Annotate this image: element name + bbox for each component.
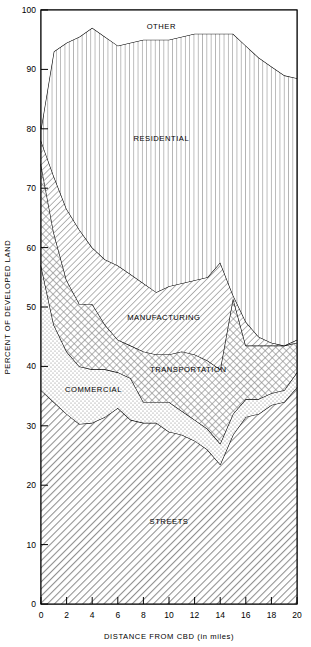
area-label-other: OTHER — [147, 22, 176, 31]
y-tick-label: 50 — [27, 302, 37, 312]
x-tick-label: 20 — [292, 610, 302, 620]
y-tick-label: 90 — [27, 64, 37, 74]
y-tick-label: 30 — [27, 421, 37, 431]
x-tick-label: 10 — [164, 610, 174, 620]
x-tick-label: 4 — [90, 610, 95, 620]
area-series-group — [41, 10, 297, 604]
area-label-manufacturing: MANUFACTURING — [127, 313, 200, 322]
y-tick-label: 40 — [27, 361, 37, 371]
y-tick-label: 80 — [27, 124, 37, 134]
y-axis-title: PERCENT OF DEVELOPED LAND — [3, 240, 12, 375]
x-tick-label: 0 — [39, 610, 44, 620]
x-tick-label: 2 — [64, 610, 69, 620]
y-tick-label: 20 — [27, 480, 37, 490]
area-label-streets: STREETS — [150, 517, 189, 526]
x-axis-title: DISTANCE FROM CBD (in miles) — [104, 632, 234, 641]
y-tick-label: 70 — [27, 183, 37, 193]
x-tick-label: 16 — [241, 610, 251, 620]
y-tick-label: 60 — [27, 243, 37, 253]
x-tick-label: 6 — [115, 610, 120, 620]
y-tick-label: 0 — [31, 599, 36, 609]
stacked-area-chart: 010203040506070809010002468101214161820 … — [0, 0, 311, 647]
y-tick-label: 100 — [22, 5, 36, 15]
x-tick-label: 8 — [141, 610, 146, 620]
x-tick-label: 12 — [190, 610, 200, 620]
x-tick-label: 18 — [267, 610, 277, 620]
area-label-commercial: COMMERCIAL — [65, 385, 122, 394]
area-label-transportation: TRANSPORTATION — [150, 365, 226, 374]
y-tick-label: 10 — [27, 540, 37, 550]
x-tick-label: 14 — [215, 610, 225, 620]
area-label-residential: RESIDENTIAL — [133, 134, 189, 143]
chart-container: 010203040506070809010002468101214161820 … — [0, 0, 311, 647]
